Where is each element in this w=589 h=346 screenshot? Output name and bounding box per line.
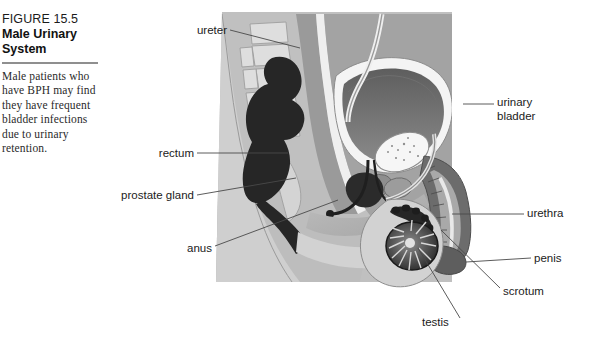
leader-penis: [466, 258, 531, 262]
figure-page: ureter rectum prostate gland anus urinar…: [0, 0, 589, 346]
label-urinary-bladder: urinary bladder: [497, 96, 577, 123]
label-prostate-gland: prostate gland: [104, 189, 194, 203]
mediastinum-testis: [405, 238, 415, 248]
figure-number: FIGURE 15.5: [2, 12, 106, 27]
label-scrotum: scrotum: [503, 285, 563, 299]
label-rectum: rectum: [130, 147, 194, 161]
label-testis: testis: [422, 316, 472, 330]
figure-caption-block: FIGURE 15.5 Male Urinary System Male pat…: [2, 12, 106, 155]
label-urethra: urethra: [527, 207, 587, 221]
caption-body-text: Male patients who have BPH may find they…: [2, 69, 106, 155]
label-urinary-bladder-line-2: bladder: [497, 110, 577, 124]
label-urinary-bladder-line-1: urinary: [497, 96, 577, 110]
label-anus: anus: [160, 242, 212, 256]
label-penis: penis: [534, 252, 586, 266]
figure-title-line-1: Male Urinary: [2, 27, 106, 42]
figure-title-line-2: System: [2, 42, 106, 57]
label-ureter: ureter: [167, 24, 227, 38]
caption-divider: [2, 62, 98, 64]
figure-title: Male Urinary System: [2, 27, 106, 57]
